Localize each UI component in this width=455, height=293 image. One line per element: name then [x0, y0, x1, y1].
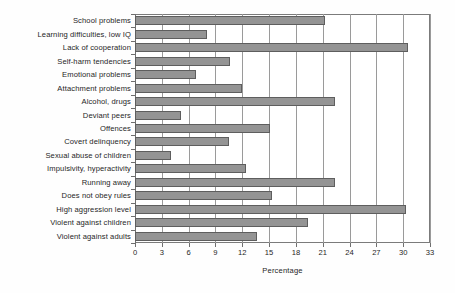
y-tick-mark	[131, 243, 135, 244]
x-tick-label: 24	[345, 248, 353, 258]
bar	[135, 16, 325, 25]
bar	[135, 30, 207, 39]
x-tick-mark	[215, 243, 216, 247]
bar	[135, 137, 229, 146]
y-tick-mark	[131, 135, 135, 136]
bar	[135, 205, 406, 214]
category-label: Attachment problems	[3, 84, 131, 93]
bar-row	[135, 137, 430, 146]
y-tick-mark	[131, 203, 135, 204]
bar	[135, 191, 272, 200]
bar	[135, 57, 230, 66]
y-tick-mark	[131, 14, 135, 15]
bar-row	[135, 30, 430, 39]
category-label: Sexual abuse of children	[3, 151, 131, 160]
category-label: Deviant peers	[3, 111, 131, 120]
bar	[135, 84, 242, 93]
x-tick-label: 3	[160, 248, 164, 258]
category-axis-labels: School problemsLearning difficulties, lo…	[0, 14, 131, 243]
bar	[135, 124, 270, 133]
x-tick-mark	[296, 243, 297, 247]
bar	[135, 70, 196, 79]
x-tick-mark	[242, 243, 243, 247]
category-label: High aggression level	[3, 205, 131, 214]
x-tick-mark	[189, 243, 190, 247]
bar-row	[135, 97, 430, 106]
x-tick-mark	[403, 243, 404, 247]
bar-row	[135, 232, 430, 241]
category-label: Running away	[3, 178, 131, 187]
bar	[135, 97, 335, 106]
x-tick-label: 30	[399, 248, 407, 258]
bar	[135, 111, 181, 120]
x-tick-mark	[323, 243, 324, 247]
y-tick-mark	[131, 176, 135, 177]
x-axis-tick-labels: 03691215182124273033	[135, 248, 430, 260]
y-tick-mark	[131, 95, 135, 96]
x-tick-label: 6	[187, 248, 191, 258]
y-tick-mark	[131, 27, 135, 28]
y-tick-mark	[131, 108, 135, 109]
x-tick-mark	[430, 243, 431, 247]
y-tick-mark	[131, 216, 135, 217]
chart-page: School problemsLearning difficulties, lo…	[0, 0, 455, 293]
bar	[135, 151, 171, 160]
bar	[135, 164, 246, 173]
bar-row	[135, 84, 430, 93]
x-tick-label: 12	[238, 248, 246, 258]
bar-row	[135, 70, 430, 79]
category-label: Alcohol, drugs	[3, 97, 131, 106]
x-tick-mark	[350, 243, 351, 247]
category-label: Lack of cooperation	[3, 43, 131, 52]
y-tick-mark	[131, 149, 135, 150]
plot-area	[135, 14, 430, 243]
bar-row	[135, 16, 430, 25]
x-tick-mark	[376, 243, 377, 247]
bar-row	[135, 191, 430, 200]
category-label: Learning difficulties, low IQ	[3, 30, 131, 39]
y-tick-mark	[131, 162, 135, 163]
x-tick-mark	[135, 243, 136, 247]
bar-row	[135, 178, 430, 187]
x-tick-label: 33	[426, 248, 434, 258]
category-label: School problems	[3, 16, 131, 25]
bar-row	[135, 124, 430, 133]
bar-row	[135, 57, 430, 66]
x-tick-label: 9	[213, 248, 217, 258]
x-tick-mark	[162, 243, 163, 247]
y-tick-mark	[131, 54, 135, 55]
y-tick-mark	[131, 122, 135, 123]
x-axis-title: Percentage	[135, 266, 430, 275]
x-tick-mark	[269, 243, 270, 247]
bar-row	[135, 151, 430, 160]
x-tick-label: 15	[265, 248, 273, 258]
x-tick-label: 18	[292, 248, 300, 258]
category-label: Violent against children	[3, 218, 131, 227]
y-tick-mark	[131, 41, 135, 42]
bar	[135, 218, 308, 227]
bar-row	[135, 164, 430, 173]
bar-row	[135, 218, 430, 227]
x-tick-label: 21	[318, 248, 326, 258]
category-label: Covert delinquency	[3, 137, 131, 146]
category-label: Offences	[3, 124, 131, 133]
category-label: Impulsivity, hyperactivity	[3, 164, 131, 173]
bar-row	[135, 43, 430, 52]
category-label: Does not obey rules	[3, 191, 131, 200]
bar-row	[135, 111, 430, 120]
category-label: Self-harm tendencies	[3, 57, 131, 66]
bar	[135, 43, 408, 52]
y-tick-mark	[131, 81, 135, 82]
bar	[135, 178, 335, 187]
x-tick-label: 27	[372, 248, 380, 258]
y-tick-mark	[131, 189, 135, 190]
y-tick-mark	[131, 68, 135, 69]
gridline	[430, 14, 431, 243]
category-label: Violent against adults	[3, 232, 131, 241]
bar	[135, 232, 257, 241]
category-label: Emotional problems	[3, 70, 131, 79]
x-tick-label: 0	[133, 248, 137, 258]
bar-row	[135, 205, 430, 214]
y-tick-mark	[131, 230, 135, 231]
